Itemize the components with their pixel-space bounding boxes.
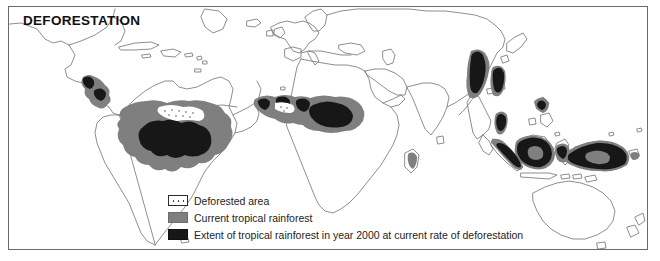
- legend-swatch-deforested-icon: [168, 195, 188, 206]
- island-lesser-sunda-2: [573, 174, 582, 179]
- island-java: [521, 173, 557, 179]
- coast-italy: [308, 51, 319, 65]
- page-title: DEFORESTATION: [23, 13, 140, 28]
- island-japan-south: [501, 55, 509, 63]
- map-legend: Deforested area Current tropical rainfor…: [168, 193, 523, 244]
- legend-swatch-year-2000-extent-icon: [168, 229, 188, 240]
- island-pacific-1: [555, 132, 560, 136]
- legend-label-deforested-area: Deforested area: [194, 195, 269, 207]
- island-trinidad: [195, 69, 201, 72]
- island-jamaica: [142, 54, 151, 58]
- coast-arabia: [365, 69, 407, 95]
- island-lesser-antilles-2: [203, 61, 207, 64]
- coast-iberia: [285, 47, 301, 61]
- island-lesser-antilles-1: [197, 56, 202, 60]
- coast-caspian: [383, 49, 395, 65]
- island-pacific-2: [609, 132, 614, 136]
- island-tasmania: [597, 242, 606, 249]
- island-philippines-3: [529, 118, 536, 125]
- coast-africa: [285, 59, 399, 213]
- legend-item-deforested-area: Deforested area: [168, 193, 523, 208]
- coast-australia: [533, 181, 615, 239]
- legend-label-current-rainforest: Current tropical rainforest: [194, 212, 312, 224]
- coast-asia-north: [327, 9, 501, 31]
- island-canary: [281, 87, 285, 90]
- island-cuba: [119, 42, 159, 50]
- map-frame: DEFORESTATION Deforested area Current tr…: [8, 6, 648, 250]
- deforestation-map-figure: DEFORESTATION Deforested area Current tr…: [0, 0, 660, 261]
- island-pacific-3: [637, 128, 642, 132]
- island-sri-lanka: [437, 136, 444, 144]
- island-timor: [585, 175, 597, 182]
- island-new-zealand-north: [635, 213, 645, 225]
- island-japan: [507, 33, 527, 53]
- coast-horn-of-africa: [383, 95, 405, 107]
- island-lesser-sunda-1: [561, 174, 570, 179]
- legend-item-year-2000-extent: Extent of tropical rainforest in year 20…: [168, 227, 523, 242]
- island-hispaniola: [161, 49, 181, 57]
- coast-black-sea: [339, 43, 365, 55]
- legend-item-current-rainforest: Current tropical rainforest: [168, 210, 523, 225]
- island-iceland: [247, 19, 261, 27]
- island-british-isles: [274, 27, 285, 38]
- legend-label-year-2000-extent: Extent of tropical rainforest in year 20…: [194, 229, 523, 241]
- island-new-zealand-south: [627, 225, 639, 237]
- coast-southeast-asia-mainland: [467, 93, 491, 139]
- coast-india: [407, 83, 449, 135]
- island-philippines-2: [541, 113, 553, 127]
- island-puerto-rico: [185, 53, 193, 57]
- coast-scandinavia: [305, 9, 327, 31]
- current-rainforest-madagascar: [408, 153, 417, 170]
- coast-greenland: [201, 9, 227, 33]
- legend-swatch-current-rainforest-icon: [168, 212, 188, 223]
